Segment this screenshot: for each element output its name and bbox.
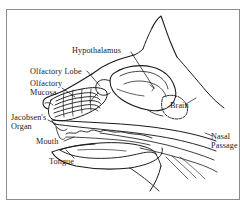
label-olfactory-mucosa-line1: Olfactory (30, 79, 62, 88)
trachea-line (140, 148, 217, 172)
leader-hypothalamus-arrow (150, 85, 154, 91)
ear-outline (152, 16, 177, 57)
tongue-center-crease (78, 149, 126, 151)
anatomy-illustration (0, 0, 251, 211)
label-brain: Brain (170, 101, 189, 110)
tongue-underside (60, 150, 156, 158)
brain-outline (110, 66, 176, 111)
jacobsens-organ-tip (60, 138, 65, 140)
lower-jaw-outline (52, 144, 95, 152)
turbinate-rib-a (63, 92, 64, 117)
leader-hypothalamus (131, 52, 154, 88)
label-jacobsens-organ-line2: Organ (11, 122, 32, 131)
brain-cortex-fold-2 (124, 81, 166, 97)
ear-inner-fold (143, 28, 152, 49)
diagram-page: Hypothalamus Olfactory Lobe Olfactory Mu… (0, 0, 251, 211)
larynx-shading-3 (180, 157, 205, 179)
ear-base-front (134, 49, 143, 55)
label-jacobsens-organ-line1: Jacobsen's (11, 113, 46, 122)
leader-mouth (64, 137, 74, 141)
label-hypothalamus: Hypothalamus (72, 46, 121, 55)
turbinate-scroll-5 (55, 109, 98, 117)
label-olfactory-mucosa-line2: Mucosa (30, 88, 57, 97)
label-nasal-passage-line2: Passage (211, 141, 238, 150)
brain-cortex-fold-1 (120, 71, 168, 89)
label-mouth: Mouth (36, 137, 58, 146)
label-nasal-passage-line1: Nasal (211, 132, 230, 141)
head-top-outline (92, 55, 134, 74)
brain-cortex-fold-3 (117, 89, 144, 96)
neck-lower-curve (130, 168, 159, 191)
label-tongue: Tongue (49, 157, 74, 166)
palate-lower-line (66, 137, 150, 145)
turbinate-rib-d (90, 89, 91, 110)
label-olfactory-lobe: Olfactory Lobe (30, 67, 82, 76)
